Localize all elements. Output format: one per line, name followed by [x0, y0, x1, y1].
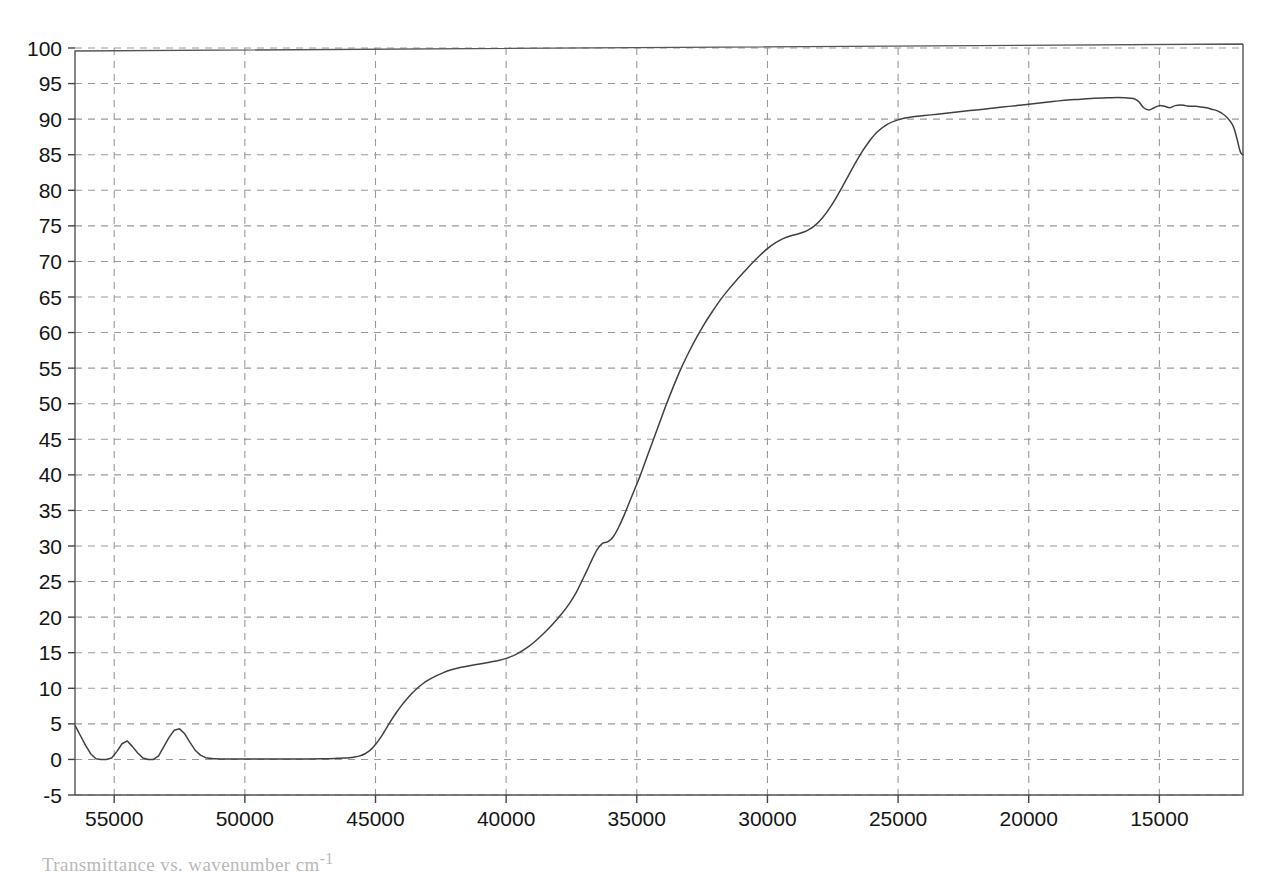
ytick-label: 5	[50, 712, 62, 735]
axes-border	[75, 44, 1243, 795]
xtick-label: 55000	[85, 807, 143, 830]
series-line-baseline-noise	[75, 725, 213, 759]
xtick-label: 40000	[477, 807, 535, 830]
ytick-label: 40	[39, 463, 62, 486]
plot-frame	[75, 44, 1243, 795]
ytick-label: 15	[39, 641, 62, 664]
spectrum-figure: -505101520253035404550556065707580859095…	[0, 0, 1288, 872]
ytick-label: 80	[39, 179, 62, 202]
ytick-label: 35	[39, 499, 62, 522]
ytick-label: 0	[50, 748, 62, 771]
ytick-label: 95	[39, 72, 62, 95]
ytick-label: 90	[39, 108, 62, 131]
ytick-label: 100	[27, 37, 62, 60]
xtick-label: 30000	[738, 807, 796, 830]
ytick-label: 20	[39, 606, 62, 629]
xtick-label: 20000	[1000, 807, 1058, 830]
gridlines	[75, 48, 1243, 795]
xtick-label: 25000	[869, 807, 927, 830]
ytick-label: 60	[39, 321, 62, 344]
ytick-label: 75	[39, 214, 62, 237]
ytick-label: 45	[39, 428, 62, 451]
transmittance-chart: -505101520253035404550556065707580859095…	[0, 0, 1288, 872]
ytick-label: -5	[43, 784, 62, 807]
xtick-label: 35000	[608, 807, 666, 830]
caption-superscript: -1	[320, 850, 334, 867]
ytick-label: 70	[39, 250, 62, 273]
xtick-label: 15000	[1130, 807, 1188, 830]
xtick-label: 45000	[346, 807, 404, 830]
caption-text: Transmittance vs. wavenumber cm	[42, 854, 320, 872]
ytick-label: 65	[39, 286, 62, 309]
ytick-label: 30	[39, 535, 62, 558]
ytick-label: 10	[39, 677, 62, 700]
figure-caption: Transmittance vs. wavenumber cm-1	[42, 850, 334, 872]
ytick-label: 55	[39, 357, 62, 380]
axis-ticks: -505101520253035404550556065707580859095…	[27, 37, 1189, 831]
ytick-label: 50	[39, 392, 62, 415]
ytick-label: 85	[39, 143, 62, 166]
xtick-label: 50000	[216, 807, 274, 830]
series-line-transmittance	[213, 97, 1243, 759]
ytick-label: 25	[39, 570, 62, 593]
data-series-group	[75, 97, 1243, 759]
